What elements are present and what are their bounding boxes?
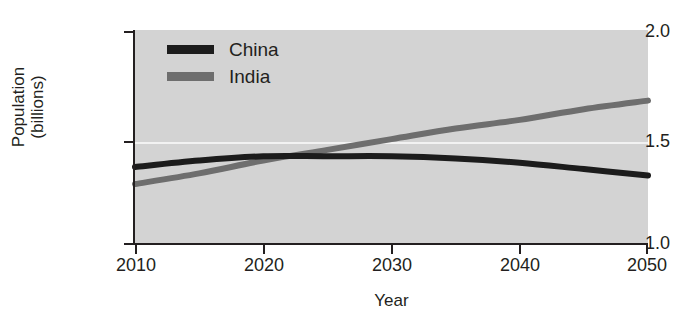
legend: China India: [167, 36, 279, 90]
legend-swatch-china: [167, 45, 214, 54]
x-axis-title: Year: [135, 291, 648, 311]
y-tick-mark-1.5: [124, 141, 133, 143]
y-axis-line: [133, 30, 135, 245]
x-tick-label-2020: 2020: [229, 256, 299, 274]
legend-item-india: India: [167, 63, 279, 90]
population-projection-chart: 2.0 1.5 1.0 2010 2020 2030 2040 2050 Pop…: [0, 0, 680, 329]
y-axis-title-line1: Population: [9, 27, 28, 187]
y-axis-title-line2: (billions): [28, 27, 47, 187]
y-tick-mark-1.0: [124, 243, 133, 245]
legend-item-china: China: [167, 36, 279, 63]
x-tick-mark-2020: [263, 245, 265, 254]
legend-label-india: India: [229, 67, 270, 86]
legend-label-china: China: [229, 40, 279, 59]
x-tick-mark-2010: [135, 245, 137, 254]
x-tick-label-2050: 2050: [612, 256, 680, 274]
y-axis-title: Population (billions): [9, 27, 47, 187]
y-tick-mark-2.0: [124, 31, 133, 33]
x-tick-mark-2030: [391, 245, 393, 254]
x-tick-label-2030: 2030: [357, 256, 427, 274]
y-tick-label-top: 2.0: [562, 22, 680, 40]
x-tick-mark-2050: [646, 245, 648, 254]
x-tick-mark-2040: [519, 245, 521, 254]
x-tick-label-2040: 2040: [485, 256, 555, 274]
legend-swatch-india: [167, 72, 214, 81]
y-tick-label-mid: 1.5: [562, 132, 680, 150]
y-tick-label-bottom: 1.0: [562, 234, 680, 252]
x-tick-label-2010: 2010: [101, 256, 171, 274]
